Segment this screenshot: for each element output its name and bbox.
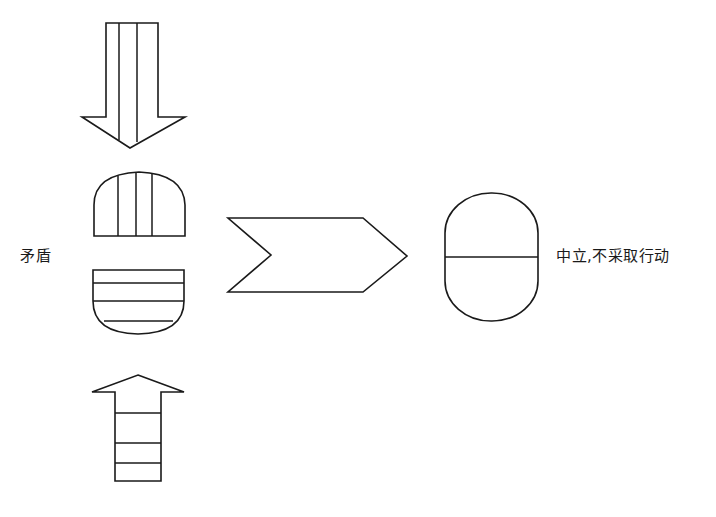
contradiction-label: 矛盾	[20, 244, 51, 265]
chevron-arrow-icon	[228, 218, 407, 292]
up-arrow-icon	[92, 375, 184, 481]
dome-shape-icon	[94, 172, 185, 236]
bowl-shape-icon	[93, 270, 184, 334]
down-arrow-icon	[82, 23, 185, 148]
neutral-no-action-label: 中立,不采取行动	[556, 244, 670, 265]
capsule-shape-icon	[445, 193, 538, 321]
